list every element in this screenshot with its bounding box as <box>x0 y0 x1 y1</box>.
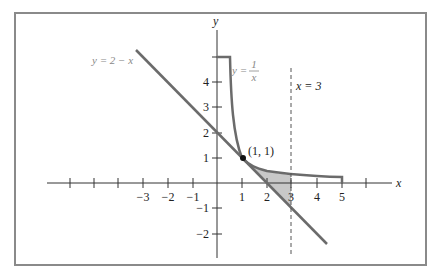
svg-text:4: 4 <box>314 190 320 204</box>
svg-text:2: 2 <box>203 126 209 140</box>
point-label: (1, 1) <box>248 144 274 158</box>
svg-text:1: 1 <box>203 151 209 165</box>
svg-text:−1: −1 <box>196 201 209 215</box>
svg-text:4: 4 <box>203 75 209 89</box>
svg-text:1: 1 <box>239 190 245 204</box>
vline-label: x = 3 <box>295 79 321 93</box>
svg-text:y =: y = <box>231 64 247 76</box>
line-label: y = 2 − x <box>91 54 133 66</box>
chart-svg: −3 −2 −1 1 2 3 4 5 4 3 2 1 −1 −2 x y y =… <box>0 0 434 276</box>
intersection-point <box>240 155 246 161</box>
x-tick-labels: −3 −2 −1 1 2 3 4 5 <box>137 190 345 204</box>
svg-text:5: 5 <box>339 190 345 204</box>
y-axis-label: y <box>212 14 219 28</box>
svg-text:−2: −2 <box>196 227 209 241</box>
svg-text:−2: −2 <box>162 190 175 204</box>
svg-text:x: x <box>251 71 257 83</box>
svg-text:−3: −3 <box>137 190 150 204</box>
y-tick-labels: 4 3 2 1 −1 −2 <box>196 75 209 241</box>
svg-text:3: 3 <box>203 100 209 114</box>
svg-text:1: 1 <box>251 58 257 70</box>
curve-label: y = 1 x <box>231 58 259 83</box>
x-axis-label: x <box>395 176 402 190</box>
svg-text:2: 2 <box>264 190 270 204</box>
